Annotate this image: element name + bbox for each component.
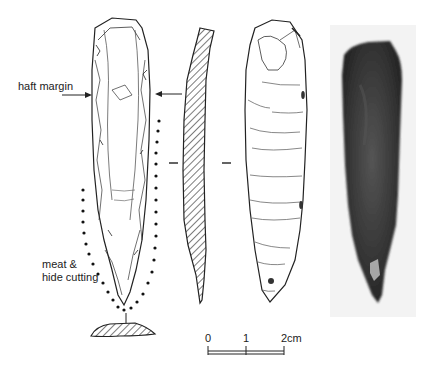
scale-tick-2cm: 2cm [281,332,302,344]
scale-tick-0: 0 [205,332,211,344]
photo-artifact-shape [330,25,416,317]
cross-section [91,323,155,337]
use-zone-label-line2: hide cutting [42,270,98,284]
artifact-photograph [330,25,416,317]
dorsal-view-drawing [92,18,150,305]
haft-margin-label: haft margin [18,79,73,93]
ventral-view-drawing [245,20,307,302]
scale-tick-1: 1 [243,332,249,344]
scale-bar [208,346,284,355]
profile-view-section [183,28,214,303]
use-zone-label-line1: meat & [42,257,77,271]
